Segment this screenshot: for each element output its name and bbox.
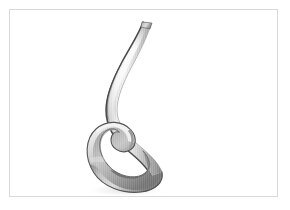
hook-sculpture-svg: [10, 10, 278, 197]
metal-hook-sculpture: [10, 10, 278, 197]
image-canvas: Polished metal hook sculpture A photogra…: [0, 0, 290, 210]
